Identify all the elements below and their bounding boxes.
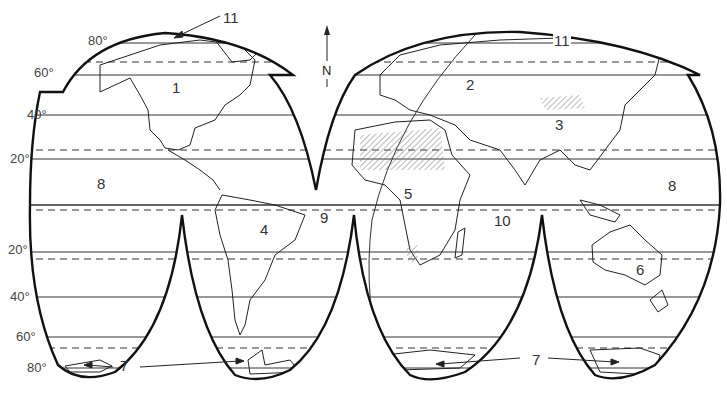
region-label-10: 10	[494, 213, 511, 228]
latitude-label-60n: 60°	[34, 66, 54, 79]
region-label-1: 1	[172, 80, 180, 95]
latitude-label-20s: 20°	[8, 243, 28, 256]
region-label-6: 6	[636, 262, 644, 277]
north-indicator: N	[320, 25, 334, 87]
region-label-7-left: 7	[120, 358, 128, 373]
region-label-8-left: 8	[97, 176, 105, 191]
region-label-8-right: 8	[668, 178, 676, 193]
world-map	[0, 0, 727, 397]
latitude-label-20n: 20°	[10, 152, 30, 165]
kalahari-hatch	[406, 245, 418, 262]
leader-arrows	[84, 16, 619, 368]
latitude-label-80s: 80°	[27, 361, 47, 374]
latitude-label-80n: 80°	[88, 34, 108, 47]
region-label-5: 5	[404, 186, 412, 201]
gobi-hatch	[540, 95, 585, 110]
continents	[65, 38, 668, 375]
australia	[592, 225, 662, 285]
region-label-11-left: 11	[223, 10, 239, 25]
graticule	[0, 35, 727, 380]
region-label-2: 2	[466, 77, 474, 92]
south-america	[215, 195, 305, 335]
region-label-9: 9	[320, 210, 328, 225]
region-label-3: 3	[555, 117, 563, 132]
latitude-label-60s: 60°	[16, 330, 36, 343]
latitude-label-40s: 40°	[10, 290, 30, 303]
latitude-label-40n: 40°	[27, 108, 47, 121]
region-label-7-right: 7	[532, 352, 540, 367]
region-label-4: 4	[260, 222, 268, 237]
north-label: N	[322, 63, 331, 78]
region-label-11-right: 11	[553, 33, 571, 48]
sahara-hatch	[360, 128, 445, 170]
